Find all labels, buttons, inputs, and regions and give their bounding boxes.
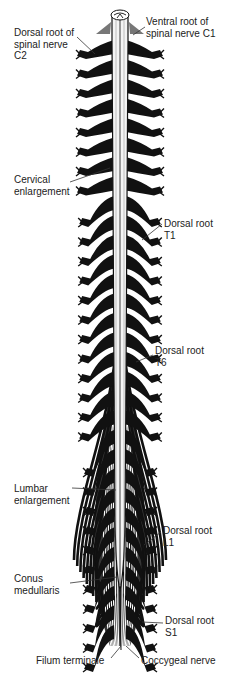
label-dorsal-root-t1: Dorsal root T1 xyxy=(164,218,213,241)
spinal-nerve-root xyxy=(126,79,163,98)
spinal-nerve-root xyxy=(77,118,114,137)
ventral-root-c1-left xyxy=(96,22,111,34)
spinal-nerve-root xyxy=(77,138,114,157)
spinal-nerve-root xyxy=(77,79,114,98)
spinal-nerve-root xyxy=(126,99,163,118)
label-coccygeal-nerve: Coccygeal nerve xyxy=(141,655,215,667)
spinal-nerve-root xyxy=(126,118,163,137)
spinal-nerve-root xyxy=(126,138,163,157)
label-dorsal-root-c2: Dorsal root of spinal nerve C2 xyxy=(14,27,74,62)
spinal-nerve-root xyxy=(126,60,163,79)
leader-line-filum-terminale xyxy=(111,646,121,658)
spinal-nerve-root xyxy=(126,40,163,59)
label-dorsal-root-l1: Dorsal root L1 xyxy=(163,525,212,548)
label-filum-terminale: Filum terminale xyxy=(36,655,104,667)
spinal-nerve-root xyxy=(126,177,163,196)
label-conus-medullaris: Conus medullaris xyxy=(14,573,60,596)
spinal-nerve-root xyxy=(77,99,114,118)
spinal-nerve-root xyxy=(77,177,114,196)
label-dorsal-root-s1: Dorsal root S1 xyxy=(165,615,214,638)
spinal-cord-diagram: Dorsal root of spinal nerve C2 Ventral r… xyxy=(0,0,228,675)
spinal-nerve-root xyxy=(77,40,114,59)
spinal-nerve-root xyxy=(126,157,163,176)
label-dorsal-root-t6: Dorsal root T6 xyxy=(155,345,204,368)
cord-cross-section xyxy=(111,10,129,20)
label-ventral-root-c1: Ventral root of spinal nerve C1 xyxy=(146,16,215,39)
leader-line-dorsal-root-s1 xyxy=(142,622,163,623)
label-cervical-enlargement: Cervical enlargement xyxy=(14,174,70,197)
spinal-nerve-root xyxy=(77,60,114,79)
label-lumbar-enlargement: Lumbar enlargement xyxy=(14,483,70,506)
